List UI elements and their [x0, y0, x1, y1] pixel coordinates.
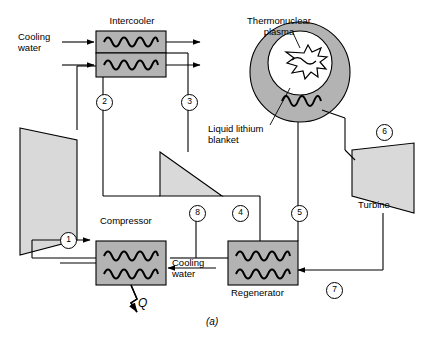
label-regenerator: Regenerator: [231, 288, 307, 299]
figure-caption: (a): [206, 316, 218, 327]
state-point-5: 5: [291, 205, 308, 222]
label-intercooler: Intercooler: [94, 16, 170, 27]
label-cooling-water-bottom: Cooling water: [172, 258, 224, 280]
state-point-7: 7: [326, 282, 343, 299]
state-point-4: 4: [232, 205, 249, 222]
label-heat-out: Q: [138, 297, 147, 311]
state-point-1: 1: [60, 232, 77, 249]
label-cooling-water-top: Cooling water: [18, 32, 70, 54]
label-liquid-lithium-blanket: Liquid lithium blanket: [208, 124, 300, 146]
regenerator-unit: [228, 241, 298, 285]
state-point-6: 6: [376, 124, 393, 141]
label-thermonuclear-plasma: Thermonuclear plasma: [232, 16, 326, 38]
state-point-2: 2: [96, 94, 113, 111]
label-turbine: Turbine: [358, 200, 412, 211]
precooler-unit: [96, 241, 166, 285]
mid-turbine-body: [160, 152, 222, 196]
state-point-3: 3: [181, 94, 198, 111]
intercooler-unit: [96, 31, 166, 77]
label-compressor: Compressor: [100, 216, 172, 227]
figure-diagram: Intercooler Cooling water Thermonuclear …: [0, 0, 436, 341]
state-point-8: 8: [189, 205, 206, 222]
